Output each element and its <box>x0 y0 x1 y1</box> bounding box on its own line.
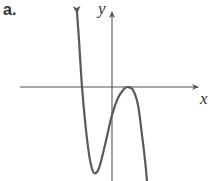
panel-label: a. <box>3 1 16 18</box>
x-axis-label: x <box>199 89 208 108</box>
polynomial-graph: a. x y <box>0 0 212 181</box>
y-axis-label: y <box>96 0 106 18</box>
